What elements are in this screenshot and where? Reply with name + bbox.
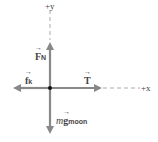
friction-force-label: fk [25,76,32,86]
arrowhead-up-icon [46,42,54,50]
origin-dot [48,86,52,90]
normal-force-label: FN [35,52,46,62]
arrowhead-down-icon [46,126,54,134]
y-axis-label: +y [45,2,55,11]
tension-force-label: T [84,76,91,86]
x-axis-label: +x [141,84,151,93]
arrowhead-left-icon [13,84,21,92]
arrowhead-right-icon [94,84,102,92]
weight-force-label: mgmoon [56,116,87,126]
